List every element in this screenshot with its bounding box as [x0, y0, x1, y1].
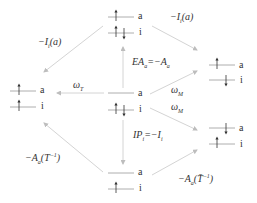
diagram-lines [0, 0, 257, 203]
label-attachment-bottom-right: −Aa(T̄−1) [178, 173, 213, 186]
label-omega-t: ωT [73, 80, 83, 92]
orbital-label-a: a [138, 88, 142, 98]
orbital-label-i: i [41, 101, 44, 111]
label-ionization-potential: IPi=−Ii [133, 130, 163, 142]
transition-diagram: a i a i a i a i a i a i −Ii(a) −Ii(a) ωT… [0, 0, 257, 203]
orbital-label-a: a [138, 11, 142, 21]
orbital-label-i: i [240, 139, 243, 149]
orbital-label-a: a [239, 123, 243, 133]
orbital-label-i: i [139, 27, 142, 37]
orbital-label-i: i [139, 104, 142, 114]
label-ionization-top-right: −Ii(a) [170, 12, 193, 24]
label-omega-m-lower: ωM [171, 102, 183, 114]
orbital-label-i: i [240, 75, 243, 85]
orbital-label-a: a [40, 85, 44, 95]
orbital-label-a: a [138, 167, 142, 177]
label-omega-m-upper: ωM [171, 85, 183, 97]
label-attachment-bottom-left: −Aa(T−1) [25, 152, 60, 165]
label-ionization-top-left: −Ii(a) [38, 37, 61, 49]
orbital-label-a: a [239, 60, 243, 70]
orbital-label-i: i [139, 183, 142, 193]
label-electron-affinity: EAa=−Aa [132, 57, 170, 69]
